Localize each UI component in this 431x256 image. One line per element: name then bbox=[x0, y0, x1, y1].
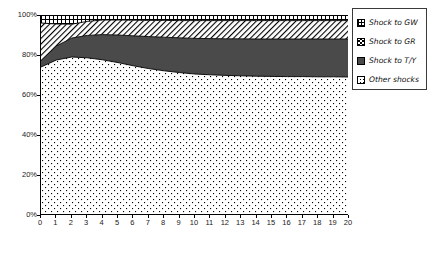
legend-item[interactable]: Shock to GR bbox=[357, 32, 423, 51]
legend-item[interactable]: Shock to T/Y bbox=[357, 51, 423, 70]
y-axis-tick-label: 80% bbox=[1, 51, 37, 59]
plot-area bbox=[40, 15, 348, 215]
area-bands bbox=[41, 15, 348, 215]
chart-root: 100%80%60%40%20%0% bbox=[0, 0, 431, 256]
legend-item-label: Shock to GR bbox=[369, 37, 415, 46]
legend-item[interactable]: Shock to GW bbox=[357, 13, 423, 32]
legend-box: Shock to GWShock to GRShock to T/YOther … bbox=[352, 8, 427, 90]
y-axis-tick-label: 20% bbox=[1, 171, 37, 179]
solid-dark-gray-icon bbox=[357, 57, 365, 65]
legend-item[interactable]: Other shocks bbox=[357, 70, 423, 89]
x-axis-tick-label: 20 bbox=[339, 218, 357, 227]
y-axis-tick-label: 60% bbox=[1, 91, 37, 99]
cross-hatch-grid-icon bbox=[357, 19, 365, 27]
diagonal-hatch-icon bbox=[357, 38, 365, 46]
legend-item-label: Shock to GW bbox=[369, 18, 418, 27]
y-axis-tick-label: 100% bbox=[1, 11, 37, 19]
sparse-dots-icon bbox=[357, 76, 365, 84]
y-axis-labels: 100%80%60%40%20%0% bbox=[0, 15, 37, 215]
area-band-other-shocks bbox=[41, 57, 348, 215]
legend-item-label: Shock to T/Y bbox=[369, 56, 416, 65]
legend-item-label: Other shocks bbox=[369, 75, 419, 84]
x-axis-labels: 01234567891011121314151617181920 bbox=[40, 218, 348, 232]
stacked-area-svg bbox=[41, 15, 348, 215]
y-axis-tick-label: 40% bbox=[1, 131, 37, 139]
